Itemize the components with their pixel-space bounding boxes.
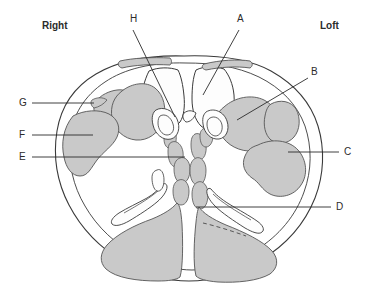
left-temporal-lateral-lobe xyxy=(264,101,299,143)
midline-oval-7-center-right xyxy=(190,158,206,185)
midline-oval-8-center-right-lower xyxy=(192,182,208,209)
orientation-label-right: Right xyxy=(42,20,68,31)
label-h: H xyxy=(130,13,137,24)
label-d: D xyxy=(336,201,343,212)
label-f: F xyxy=(19,129,25,140)
label-g: G xyxy=(19,97,27,108)
orientation-label-left: Loft xyxy=(320,20,339,31)
anatomy-figure: Right Loft A B C D E F G H xyxy=(0,0,368,287)
label-b: B xyxy=(311,66,318,77)
label-c: C xyxy=(344,146,351,157)
cross-section-drawing xyxy=(0,0,368,287)
midline-oval-6-center-left-lower xyxy=(173,180,189,205)
label-a: A xyxy=(237,13,244,24)
right-small-oval-canal xyxy=(152,170,164,192)
label-e: E xyxy=(19,151,26,162)
